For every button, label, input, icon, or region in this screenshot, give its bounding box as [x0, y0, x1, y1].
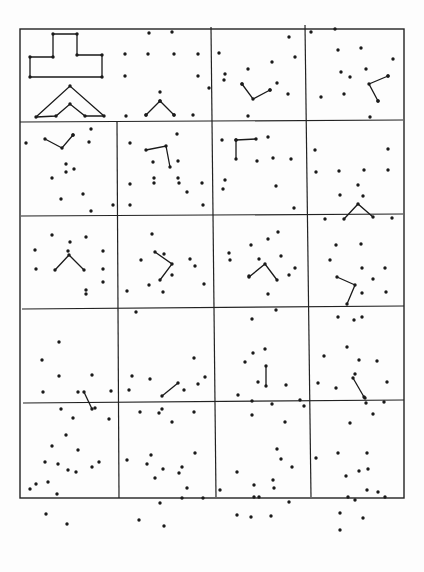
- dot: [251, 97, 254, 100]
- dot: [28, 487, 31, 490]
- dot: [34, 482, 37, 485]
- dot: [107, 417, 110, 420]
- embedded-shape-segment: [146, 101, 174, 115]
- dot: [217, 51, 220, 54]
- dot: [145, 462, 148, 465]
- dot: [257, 495, 260, 498]
- dot: [360, 266, 363, 269]
- dot: [313, 148, 316, 151]
- dot: [371, 215, 374, 218]
- vertex-dot: [28, 55, 31, 58]
- dot: [383, 266, 386, 269]
- dot: [235, 513, 238, 516]
- dot: [252, 483, 255, 486]
- dot: [193, 264, 196, 267]
- dot: [367, 82, 370, 85]
- dot: [227, 251, 230, 254]
- dot: [59, 407, 62, 410]
- dot: [72, 167, 75, 170]
- dot: [279, 457, 282, 460]
- cell-r2c4: [313, 147, 393, 220]
- dot: [87, 140, 90, 143]
- dot: [335, 275, 338, 278]
- dot: [200, 181, 203, 184]
- dot: [264, 384, 267, 387]
- dot: [43, 460, 46, 463]
- vertex-dot: [34, 115, 37, 118]
- dot: [203, 375, 206, 378]
- dot: [357, 469, 360, 472]
- dot: [153, 476, 156, 479]
- dot: [175, 132, 178, 135]
- dot: [236, 393, 239, 396]
- dot: [309, 30, 312, 33]
- dot: [111, 203, 114, 206]
- dot: [128, 182, 131, 185]
- dot: [148, 377, 151, 380]
- dot: [366, 467, 369, 470]
- dot: [287, 35, 290, 38]
- dot: [234, 157, 237, 160]
- dot: [263, 347, 266, 350]
- dot: [266, 135, 269, 138]
- dot: [40, 358, 43, 361]
- dot: [93, 406, 96, 409]
- dot: [246, 67, 249, 70]
- dot: [123, 74, 126, 77]
- dot: [334, 243, 337, 246]
- cell-r1c3: [207, 35, 296, 117]
- dot: [60, 146, 63, 149]
- dot: [76, 448, 79, 451]
- embedded-shape-segment: [344, 204, 373, 219]
- dot: [202, 282, 205, 285]
- dot: [161, 467, 164, 470]
- dot: [250, 317, 253, 320]
- dot: [339, 70, 342, 73]
- dot: [250, 413, 253, 416]
- dot: [257, 257, 260, 260]
- dot: [287, 273, 290, 276]
- dot: [50, 444, 53, 447]
- dot: [146, 52, 149, 55]
- dot: [342, 92, 345, 95]
- dot: [64, 433, 67, 436]
- dot: [337, 169, 340, 172]
- dot: [185, 486, 188, 489]
- embedded-shape-segment: [146, 146, 170, 167]
- dot: [375, 359, 378, 362]
- dot: [274, 308, 277, 311]
- dot: [223, 72, 226, 75]
- dot: [333, 27, 336, 30]
- dot: [360, 315, 363, 318]
- dot: [353, 372, 356, 375]
- dot: [164, 144, 167, 147]
- chevron-outer: [36, 86, 104, 117]
- dot: [345, 345, 348, 348]
- dot: [90, 373, 93, 376]
- t-shape-target: [30, 34, 102, 77]
- dot: [57, 340, 60, 343]
- dot: [44, 512, 47, 515]
- dot: [264, 364, 267, 367]
- dot: [123, 52, 126, 55]
- dot: [334, 386, 337, 389]
- dot: [109, 389, 112, 392]
- cell-r1c4: [309, 27, 394, 118]
- dot: [149, 453, 152, 456]
- dot: [71, 416, 74, 419]
- dot: [345, 302, 348, 305]
- dot: [53, 268, 56, 271]
- dot: [172, 52, 175, 55]
- cell-r2c2: [128, 132, 204, 206]
- dot: [84, 288, 87, 291]
- dot: [43, 137, 46, 140]
- dot: [314, 456, 317, 459]
- dot: [342, 217, 345, 220]
- dot: [158, 278, 161, 281]
- dot: [384, 290, 387, 293]
- dot: [196, 52, 199, 55]
- dot: [272, 486, 275, 489]
- dot: [59, 197, 62, 200]
- dot: [271, 478, 274, 481]
- dot: [328, 258, 331, 261]
